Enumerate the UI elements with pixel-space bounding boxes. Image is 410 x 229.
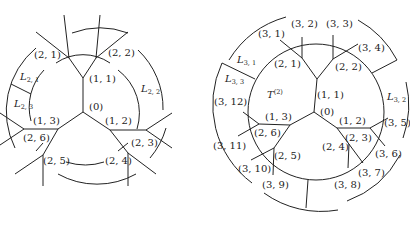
outer-arc-bottom-right xyxy=(347,155,400,201)
left-figure: (1, 1) (0) (1, 2) (1, 3) (2, 1) (2, 2) (… xyxy=(0,15,172,186)
edge-0-13 xyxy=(290,112,314,125)
tree-label-T2: T(2) xyxy=(267,88,283,100)
edge-21-out-b xyxy=(64,15,69,58)
edge-23-out-a xyxy=(146,113,172,130)
edge-12-24 xyxy=(110,130,128,153)
node-label-3-9: (3, 9) xyxy=(262,179,289,190)
inner-arc-bottom xyxy=(66,162,104,165)
node-label-3-2: (3, 2) xyxy=(291,18,318,29)
node-label-3-10: (3, 10) xyxy=(238,163,271,174)
arc-divider-right xyxy=(372,60,397,73)
diagram-canvas: (1, 1) (0) (1, 2) (1, 3) (2, 1) (2, 2) (… xyxy=(0,0,410,229)
inner-arc-top xyxy=(56,55,110,63)
arc-divider-bottom xyxy=(306,180,308,208)
outer-arc-top xyxy=(72,28,128,33)
edge-11-21 xyxy=(69,58,83,78)
node-label-2-3: (2, 3) xyxy=(345,132,372,143)
node-label-3-4: (3, 4) xyxy=(358,42,385,53)
node-label-3-1: (3, 1) xyxy=(258,28,285,39)
node-label-1-3: (1, 3) xyxy=(33,115,60,126)
node-label-2-4: (2, 4) xyxy=(105,155,132,166)
node-label-2-5: (2, 5) xyxy=(43,155,70,166)
edge-26-out-a xyxy=(0,113,24,129)
edge-13-26 xyxy=(259,124,290,125)
edge-11-21 xyxy=(302,58,317,79)
arc-label-L33: L3, 3 xyxy=(224,73,244,86)
arc-label-L21: L2, 1 xyxy=(19,71,39,84)
node-label-0: (0) xyxy=(89,101,103,112)
node-label-3-6: (3, 6) xyxy=(375,148,402,159)
node-label-2-2: (2, 2) xyxy=(335,61,362,72)
node-label-2-5: (2, 5) xyxy=(274,150,301,161)
node-label-3-7: (3, 7) xyxy=(358,167,385,178)
outer-arc-top-right xyxy=(358,20,397,60)
edge-26-312 xyxy=(243,112,259,124)
node-label-2-6: (2, 6) xyxy=(254,127,281,138)
outer-arc-bottom xyxy=(58,174,136,184)
node-label-2-2: (2, 2) xyxy=(108,47,135,58)
edge-22-out-a xyxy=(96,15,100,58)
node-label-1-1: (1, 1) xyxy=(317,89,344,100)
right-figure: (1, 1) (0) (1, 2) (1, 3) (2, 1) (2, 2) (… xyxy=(213,17,410,211)
node-label-2-6: (2, 6) xyxy=(23,132,50,143)
tick-26 xyxy=(36,143,43,151)
node-label-1-1: (1, 1) xyxy=(89,73,116,84)
edge-23-36 xyxy=(370,128,385,146)
node-label-2-1: (2, 1) xyxy=(274,58,301,69)
edge-0-13 xyxy=(58,112,83,129)
node-label-1-2: (1, 2) xyxy=(339,115,366,126)
node-label-3-11: (3, 11) xyxy=(213,140,246,151)
edge-25-out-a xyxy=(15,155,43,174)
node-label-3-8: (3, 8) xyxy=(334,179,361,190)
arc-label-L22: L2, 2 xyxy=(140,83,160,96)
node-label-0: (0) xyxy=(320,106,334,117)
node-label-1-2: (1, 2) xyxy=(105,115,132,126)
outer-arc-right xyxy=(403,82,409,138)
node-label-3-12: (3, 12) xyxy=(214,96,247,107)
node-label-2-4: (2, 4) xyxy=(322,141,349,152)
node-label-3-3: (3, 3) xyxy=(326,18,353,29)
edge-22-34 xyxy=(333,44,358,59)
outer-arc-bottom xyxy=(264,193,338,211)
node-label-2-1: (2, 1) xyxy=(34,49,61,60)
node-label-1-3: (1, 3) xyxy=(265,111,292,122)
arc-label-L31: L3, 1 xyxy=(236,54,256,67)
node-label-3-5: (3, 5) xyxy=(384,117,410,128)
arc-label-L32: L3, 2 xyxy=(386,91,406,104)
node-label-2-3: (2, 3) xyxy=(131,137,158,148)
arc-divider-left xyxy=(11,84,31,94)
edge-11-22 xyxy=(317,59,333,79)
tick-24 xyxy=(118,143,128,151)
outer-arc-right-a xyxy=(138,50,163,110)
